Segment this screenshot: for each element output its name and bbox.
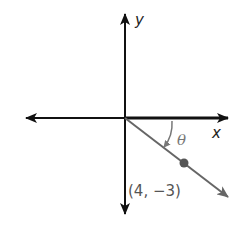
point-label: (4, −3) [128,182,181,200]
point-marker [180,159,189,168]
coordinate-plane: y x θ (4, −3) [0,0,249,228]
y-axis-label: y [134,11,145,29]
angle-arc [164,121,172,147]
x-axis-label: x [211,124,221,142]
angle-label: θ [177,131,186,149]
